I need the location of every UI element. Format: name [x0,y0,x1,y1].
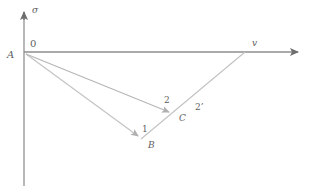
point-label-A: A [7,50,14,60]
point-label-B: B [148,141,155,150]
line-B-to-v [141,52,245,139]
point-label-C: C [179,114,186,123]
vector-2 [26,54,169,112]
diagram-svg [0,0,317,196]
axis-label-sigma: σ [32,6,38,15]
line-label-2-prime: 2’ [195,103,204,112]
diagram-canvas: σ 0 A v 1 B 2 C 2’ [0,0,317,196]
vector-1 [26,54,138,136]
axis-label-v: v [252,39,257,48]
origin-label-zero: 0 [30,39,36,49]
vector-label-1: 1 [142,125,148,134]
vector-label-2: 2 [164,96,170,105]
